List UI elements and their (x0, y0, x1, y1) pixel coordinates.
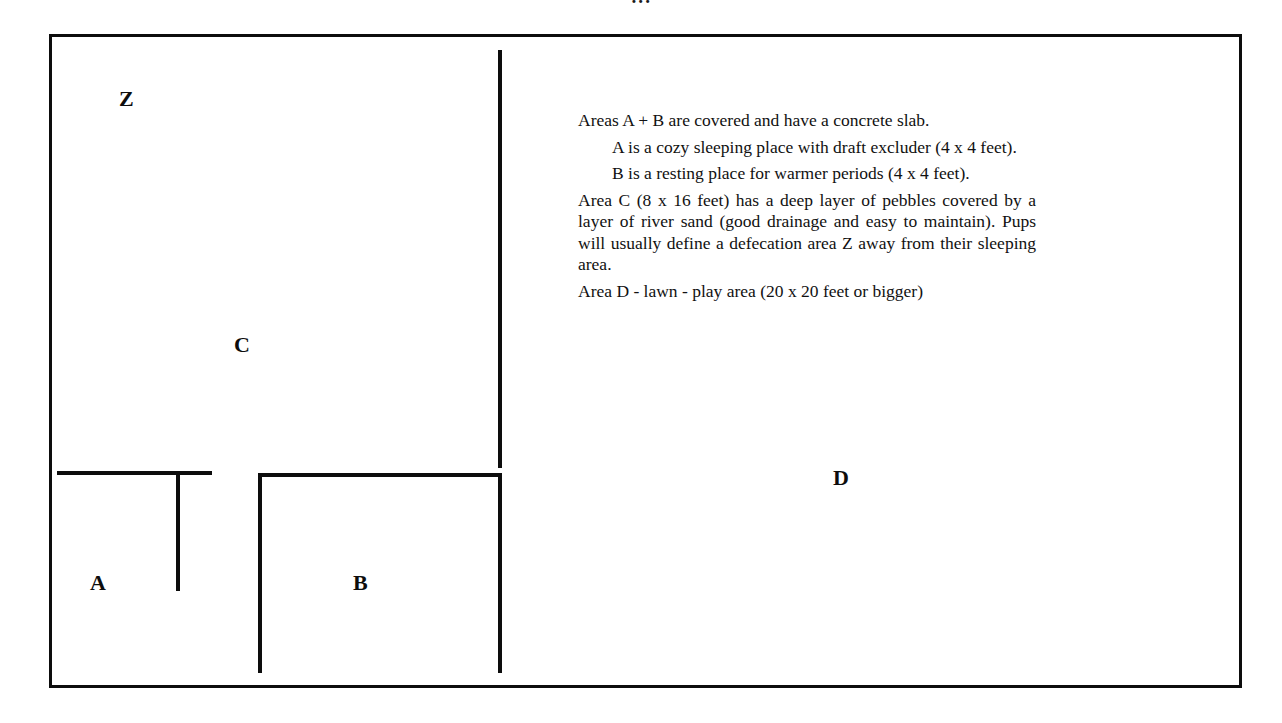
wall-area-a-front (57, 471, 212, 475)
legend-line-areas-ab: Areas A + B are covered and have a concr… (578, 110, 1036, 132)
wall-area-a-draft-excluder (176, 471, 180, 591)
wall-area-b-left (258, 473, 262, 673)
area-label-a: A (90, 572, 106, 594)
wall-area-b-right (498, 473, 502, 673)
legend-line-area-a: A is a cozy sleeping place with draft ex… (578, 137, 1036, 159)
wall-area-b-top (258, 473, 502, 477)
area-label-b: B (353, 572, 368, 594)
cut-off-header-remnant: ··· (0, 0, 1282, 13)
legend-line-area-d: Area D - lawn - play area (20 x 20 feet … (578, 281, 1036, 303)
legend-text-block: Areas A + B are covered and have a concr… (578, 110, 1036, 307)
area-label-c: C (234, 334, 250, 356)
legend-line-area-c: Area C (8 x 16 feet) has a deep layer of… (578, 190, 1036, 276)
area-label-z: Z (119, 88, 134, 110)
wall-divider-run-upper (498, 50, 502, 468)
legend-line-area-b: B is a resting place for warmer periods … (578, 163, 1036, 185)
area-label-d: D (833, 467, 849, 489)
